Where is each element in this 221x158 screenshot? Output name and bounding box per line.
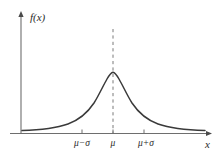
tick-label-mu: μ	[110, 138, 116, 148]
x-axis-arrowhead	[206, 131, 212, 136]
y-axis	[18, 11, 23, 134]
normal-distribution-figure: f(x) x μ−σ μ μ+σ	[0, 0, 221, 158]
tick-label-mu-minus-sigma: μ−σ	[73, 138, 90, 148]
y-axis-arrowhead	[18, 11, 23, 17]
x-axis	[10, 131, 212, 136]
tick-label-mu-plus-sigma: μ+σ	[137, 138, 154, 148]
plot-canvas: f(x) x μ−σ μ μ+σ	[0, 0, 221, 158]
x-axis-label: x	[204, 138, 210, 150]
y-axis-label: f(x)	[30, 11, 46, 24]
